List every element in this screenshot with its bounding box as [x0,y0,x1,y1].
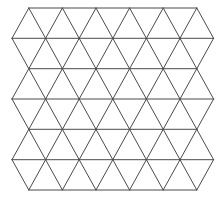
diagonal-line [62,69,79,99]
diagonal-line [180,160,197,190]
diagonal-line [146,129,163,159]
diagonal-line [46,69,63,99]
diagonal-line [130,160,147,190]
diagonal-line [96,99,113,129]
diagonal-line [197,160,214,190]
diagonal-line [146,160,163,190]
diagonal-line [62,38,79,68]
diagonal-line [79,99,96,129]
diagonal-line [29,69,46,99]
diagonal-line [197,129,214,159]
diagonal-line [12,8,29,38]
diagonal-line [113,99,130,129]
diagonal-line [62,129,79,159]
diagonal-line [62,8,79,38]
diagonal-line [96,38,113,68]
diagonal-line [163,38,180,68]
diagonal-line [180,38,197,68]
diagonal-line [130,99,147,129]
diagonal-line [180,99,197,129]
diagonal-line [96,8,113,38]
diagonal-line [29,99,46,129]
diagonal-line [46,38,63,68]
diagonal-line [113,69,130,99]
diagonal-line [79,160,96,190]
triangular-grid-diagram [0,0,219,198]
diagonal-line [79,69,96,99]
diagonal-line [46,129,63,159]
diagonal-line [130,129,147,159]
diagonal-line [79,129,96,159]
diagonal-line [12,99,29,129]
diagonal-line [113,129,130,159]
diagonal-line [163,69,180,99]
diagonal-line [46,160,63,190]
diagonal-line [29,160,46,190]
diagonal-line [46,8,63,38]
diagonal-line [130,69,147,99]
diagonal-line [163,99,180,129]
diagonal-line [163,129,180,159]
diagonal-line [96,129,113,159]
diagonal-line [180,129,197,159]
diagonal-line [163,8,180,38]
diagonal-line [79,8,96,38]
diagonal-line [130,38,147,68]
diagonal-line [180,69,197,99]
diagonal-line [146,69,163,99]
diagonal-line [146,38,163,68]
diagonal-line [12,38,29,68]
diagonal-line [146,8,163,38]
diagonal-line [29,129,46,159]
diagonal-line [197,8,214,38]
diagonal-line [197,69,214,99]
diagonal-line [197,99,214,129]
diagonal-line [96,69,113,99]
diagonal-line [197,38,214,68]
diagonal-line [62,99,79,129]
diagonal-line [180,8,197,38]
diagonal-line [96,160,113,190]
diagonal-line [46,99,63,129]
diagonal-line [29,8,46,38]
diagonal-line [130,8,147,38]
diagonal-line [113,8,130,38]
diagonal-line [29,38,46,68]
diagonal-line [146,99,163,129]
diagonal-line [62,160,79,190]
diagonal-line [12,160,29,190]
grid-lines [12,8,214,190]
diagonal-line [113,160,130,190]
diagonal-line [12,129,29,159]
diagonal-line [79,38,96,68]
diagonal-line [113,38,130,68]
diagonal-line [12,69,29,99]
diagonal-line [163,160,180,190]
